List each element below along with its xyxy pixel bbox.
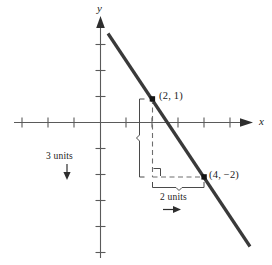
graph-figure: y x (2, 1) (4, −2) 3 units 2 units xyxy=(0,0,272,265)
right-arrow-icon xyxy=(163,206,181,213)
point-label-4-neg2: (4, −2) xyxy=(209,170,239,181)
annotation-2-units: 2 units xyxy=(160,193,187,203)
plotted-line xyxy=(108,34,250,247)
right-angle-marker xyxy=(154,169,161,177)
x-axis xyxy=(14,118,253,128)
horizontal-measure-bracket xyxy=(153,182,205,191)
y-axis-arrowhead xyxy=(96,16,105,28)
point-label-2-1: (2, 1) xyxy=(159,91,183,102)
y-axis xyxy=(96,16,106,258)
annotation-3-units: 3 units xyxy=(46,152,73,162)
graph-canvas xyxy=(0,0,272,265)
data-point-4-neg2 xyxy=(201,174,206,179)
x-axis-label: x xyxy=(259,116,264,127)
x-axis-arrowhead xyxy=(240,118,253,127)
down-arrow-icon xyxy=(63,164,70,180)
vertical-measure-bracket xyxy=(137,99,145,177)
y-axis-label: y xyxy=(97,3,102,14)
data-point-2-1 xyxy=(150,96,155,101)
